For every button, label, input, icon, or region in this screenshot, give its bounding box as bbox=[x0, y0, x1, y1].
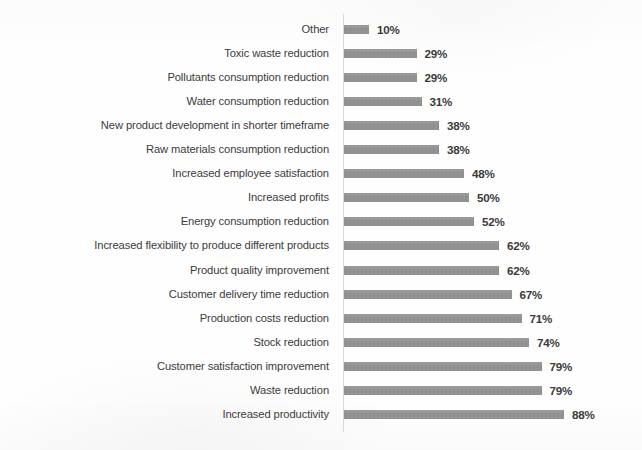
bar-group: 52% bbox=[344, 209, 505, 235]
category-label: Water consumption reduction bbox=[29, 95, 329, 108]
bar-group: 74% bbox=[344, 329, 560, 355]
bar-row: Customer delivery time reduction67% bbox=[0, 281, 642, 307]
category-label: Other bbox=[29, 23, 329, 36]
bar-value-label: 62% bbox=[507, 239, 530, 252]
bar-group: 79% bbox=[344, 353, 572, 379]
bar bbox=[344, 386, 542, 395]
horizontal-bar-chart: Other10%Toxic waste reduction29%Pollutan… bbox=[0, 0, 642, 450]
category-label: Stock reduction bbox=[29, 336, 329, 349]
category-label: Pollutants consumption reduction bbox=[29, 71, 329, 84]
bar-row: Water consumption reduction31% bbox=[0, 88, 642, 114]
bar bbox=[344, 290, 512, 299]
bar-value-label: 79% bbox=[550, 360, 573, 373]
bar-value-label: 71% bbox=[530, 312, 553, 325]
bar-row: Product quality improvement62% bbox=[0, 257, 642, 283]
category-label: Product quality improvement bbox=[29, 264, 329, 277]
bar bbox=[344, 121, 439, 130]
category-label: Raw materials consumption reduction bbox=[29, 143, 329, 156]
bar bbox=[344, 169, 464, 178]
bar-value-label: 48% bbox=[472, 167, 495, 180]
bar bbox=[344, 73, 417, 82]
bar-value-label: 52% bbox=[482, 215, 505, 228]
bar-row: Increased flexibility to produce differe… bbox=[0, 233, 642, 259]
bar bbox=[344, 338, 529, 347]
bar-group: 62% bbox=[344, 233, 530, 259]
category-label: Increased flexibility to produce differe… bbox=[29, 239, 329, 252]
bar-group: 71% bbox=[344, 305, 552, 331]
bar-value-label: 62% bbox=[507, 264, 530, 277]
bar bbox=[344, 49, 417, 58]
bar-value-label: 74% bbox=[537, 336, 560, 349]
bar-row: Stock reduction74% bbox=[0, 329, 642, 355]
bar-row: Toxic waste reduction29% bbox=[0, 40, 642, 66]
bar-value-label: 88% bbox=[572, 408, 595, 421]
bar-value-label: 38% bbox=[447, 119, 470, 132]
plot-area: Other10%Toxic waste reduction29%Pollutan… bbox=[0, 0, 642, 450]
bar-row: New product development in shorter timef… bbox=[0, 112, 642, 138]
bar-row: Energy consumption reduction52% bbox=[0, 209, 642, 235]
bar-value-label: 29% bbox=[425, 71, 448, 84]
bar-group: 79% bbox=[344, 378, 572, 404]
bar bbox=[344, 266, 499, 275]
bar bbox=[344, 362, 542, 371]
bar-row: Raw materials consumption reduction38% bbox=[0, 137, 642, 163]
bar-group: 50% bbox=[344, 185, 500, 211]
bar-value-label: 38% bbox=[447, 143, 470, 156]
bar-group: 38% bbox=[344, 137, 470, 163]
bar-value-label: 31% bbox=[430, 95, 453, 108]
bar bbox=[344, 145, 439, 154]
bar-value-label: 29% bbox=[425, 47, 448, 60]
category-label: Customer satisfaction improvement bbox=[29, 360, 329, 373]
bar-row: Waste reduction79% bbox=[0, 378, 642, 404]
bar bbox=[344, 193, 469, 202]
bar-value-label: 10% bbox=[377, 23, 400, 36]
category-label: Toxic waste reduction bbox=[29, 47, 329, 60]
bar-group: 10% bbox=[344, 16, 400, 42]
category-label: Customer delivery time reduction bbox=[29, 288, 329, 301]
bar bbox=[344, 410, 564, 419]
bar-row: Increased productivity88% bbox=[0, 402, 642, 428]
bar-value-label: 79% bbox=[550, 384, 573, 397]
bar-group: 62% bbox=[344, 257, 530, 283]
category-label: Energy consumption reduction bbox=[29, 215, 329, 228]
bar-row: Pollutants consumption reduction29% bbox=[0, 64, 642, 90]
category-label: Increased productivity bbox=[29, 408, 329, 421]
bar bbox=[344, 241, 499, 250]
bar-value-label: 50% bbox=[477, 191, 500, 204]
category-label: New product development in shorter timef… bbox=[29, 119, 329, 132]
bar-group: 29% bbox=[344, 64, 447, 90]
bar bbox=[344, 217, 474, 226]
category-label: Production costs reduction bbox=[29, 312, 329, 325]
bar-row: Customer satisfaction improvement79% bbox=[0, 353, 642, 379]
bar-group: 29% bbox=[344, 40, 447, 66]
bar-row: Other10% bbox=[0, 16, 642, 42]
bar bbox=[344, 97, 422, 106]
bar-group: 31% bbox=[344, 88, 452, 114]
bar-group: 88% bbox=[344, 402, 595, 428]
bar-row: Production costs reduction71% bbox=[0, 305, 642, 331]
bar bbox=[344, 314, 522, 323]
bar-row: Increased profits50% bbox=[0, 185, 642, 211]
bar-group: 38% bbox=[344, 112, 470, 138]
bar bbox=[344, 25, 369, 34]
category-label: Increased profits bbox=[29, 191, 329, 204]
bar-group: 67% bbox=[344, 281, 542, 307]
category-label: Waste reduction bbox=[29, 384, 329, 397]
bar-group: 48% bbox=[344, 161, 495, 187]
bar-row: Increased employee satisfaction48% bbox=[0, 161, 642, 187]
bar-value-label: 67% bbox=[520, 288, 543, 301]
category-label: Increased employee satisfaction bbox=[29, 167, 329, 180]
